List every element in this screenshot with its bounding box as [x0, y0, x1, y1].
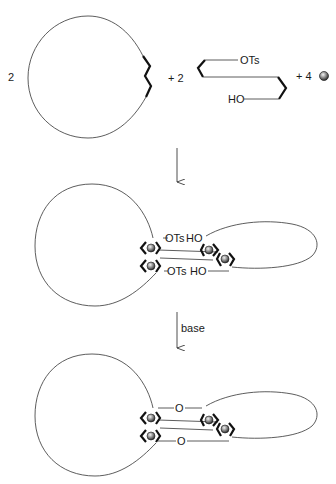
metal-ball-icon — [221, 255, 229, 263]
metal-ball-icon — [205, 416, 213, 424]
macrocycle-reactant — [28, 16, 151, 138]
metal-ball-icon — [221, 425, 229, 433]
linker-coefficient: + 2 — [168, 72, 184, 84]
bottom-ots-label: OTs — [167, 265, 187, 277]
template-intermediate: OTs HO OTs HO — [35, 184, 317, 306]
metal-ball-icon — [147, 432, 155, 440]
metal-ball-icon — [147, 262, 155, 270]
linker-reactant: OTs HO — [198, 54, 286, 105]
bottom-ether-o-label: O — [177, 435, 186, 447]
template-coefficient: + 4 — [296, 70, 312, 82]
reaction-scheme: 2 + 2 OTs HO + 4 OTs HO OTs HO — [0, 0, 336, 484]
base-label: base — [181, 322, 205, 334]
metal-ball-icon — [147, 244, 155, 252]
metal-ball-icon — [205, 246, 213, 254]
bottom-ho-label: HO — [190, 265, 207, 277]
catenane-product: O O — [35, 354, 317, 476]
top-ho-label: HO — [186, 232, 203, 244]
macrocycle-coefficient: 2 — [8, 71, 14, 83]
top-ether-o-label: O — [175, 402, 184, 414]
metal-ball-icon — [147, 414, 155, 422]
metal-ball-icon — [320, 72, 329, 81]
top-ots-label: OTs — [165, 232, 185, 244]
linker-ots-label: OTs — [240, 54, 260, 66]
linker-ho-label: HO — [228, 93, 245, 105]
